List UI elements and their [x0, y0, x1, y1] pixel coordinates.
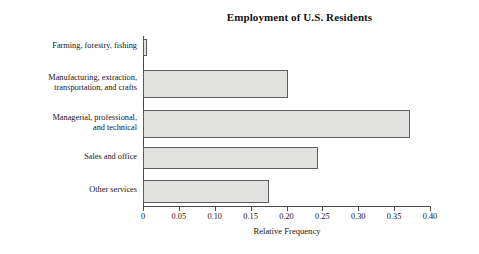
- x-axis-tick: [215, 206, 216, 211]
- x-axis-title: Relative Frequency: [143, 226, 431, 236]
- x-axis-tick: [394, 206, 395, 211]
- x-axis-tick: [358, 206, 359, 211]
- x-axis-tick-label: 0.35: [374, 212, 414, 221]
- x-axis-tick-label: 0.30: [338, 212, 378, 221]
- chart-title: Employment of U.S. Residents: [0, 11, 479, 23]
- bar: [143, 110, 410, 138]
- category-label: Farming, forestry, fishing: [9, 41, 137, 52]
- category-label: Manufacturing, extraction, transportatio…: [9, 73, 137, 94]
- category-label: Managerial, professional, and technical: [9, 113, 137, 134]
- bar: [143, 147, 318, 169]
- x-axis-tick: [322, 206, 323, 211]
- x-axis-tick: [430, 206, 431, 211]
- x-axis-tick: [287, 206, 288, 211]
- chart-container: Employment of U.S. Residents Farming, fo…: [0, 0, 479, 254]
- x-axis-tick-label: 0.25: [302, 212, 342, 221]
- bar: [143, 70, 288, 98]
- x-axis-tick: [179, 206, 180, 211]
- category-label: Other services: [9, 185, 137, 196]
- x-axis-tick: [143, 206, 144, 211]
- bar: [143, 39, 147, 56]
- x-axis-tick: [251, 206, 252, 211]
- x-axis-tick-label: 0.10: [195, 212, 235, 221]
- bar: [143, 180, 269, 203]
- x-axis-tick-label: 0.15: [231, 212, 271, 221]
- x-axis-tick-label: 0.05: [159, 212, 199, 221]
- category-label: Sales and office: [9, 152, 137, 163]
- x-axis-tick-label: 0.40: [410, 212, 450, 221]
- x-axis-tick-label: 0.20: [267, 212, 307, 221]
- x-axis-tick-label: 0: [123, 212, 163, 221]
